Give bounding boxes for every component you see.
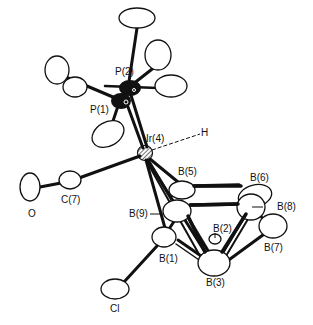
label-b8: B(8) [277, 202, 296, 212]
atom-b1 [152, 227, 176, 247]
label-p2: P(2) [115, 67, 134, 77]
label-p1: P(1) [90, 105, 109, 115]
atom-ellipsoid-top [119, 8, 155, 28]
label-b3: B(3) [206, 278, 225, 288]
bond-b8-b3b [226, 214, 251, 256]
atom-ellipsoid-p1-sub [87, 115, 128, 153]
label-b6: B(6) [250, 173, 269, 183]
atom-ellipsoid-left-a [45, 56, 69, 84]
atom-ellipsoid-left-b [63, 77, 87, 97]
bond-c7-o [40, 183, 61, 187]
atom-ir4 [138, 146, 153, 161]
atom-ellipsoid-right-lower [155, 75, 187, 97]
label-b5: B(5) [178, 167, 197, 177]
atom-o [20, 173, 40, 201]
atom-b7 [259, 214, 287, 238]
bond-ir-c7 [79, 156, 140, 178]
label-b1: B(1) [159, 254, 178, 264]
label-c7: C(7) [61, 195, 80, 205]
label-cl: Cl [110, 304, 119, 314]
label-o: O [28, 209, 36, 219]
label-b9: B(9) [129, 209, 148, 219]
atom-b3 [198, 250, 230, 276]
label-ir4: Ir(4) [146, 134, 164, 144]
ortep-drawing [0, 0, 313, 325]
atom-b5 [169, 181, 195, 199]
atom-c7 [59, 171, 81, 189]
atom-cl [101, 279, 129, 299]
label-b2: B(2) [213, 224, 232, 234]
atom-b9 [163, 200, 191, 222]
atom-ellipsoid-right-upper [145, 40, 171, 70]
molecular-structure-diagram: P(2) P(1) Ir(4) H C(7) O B(5) B(6) B(8) … [0, 0, 313, 325]
label-h: H [201, 128, 208, 138]
label-b7: B(7) [264, 243, 283, 253]
bond-p2-top [128, 28, 137, 88]
bond-b1-cl [124, 246, 157, 282]
